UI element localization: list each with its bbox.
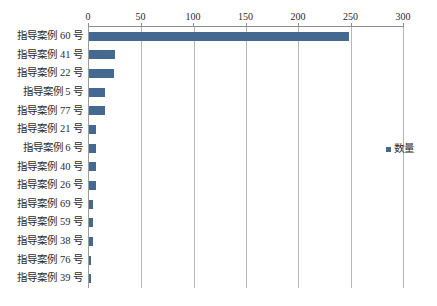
axis-tick (403, 23, 404, 27)
axis-tick-label: 300 (396, 12, 411, 22)
axis-tick-label: 150 (238, 12, 253, 22)
axis-tick-label: 0 (86, 12, 91, 22)
bar (89, 144, 96, 153)
bar (89, 88, 105, 97)
bar (89, 181, 96, 190)
category-label: 指导案例 5 号 (0, 83, 86, 102)
bar (89, 69, 114, 78)
axis-tick-label: 250 (343, 12, 358, 22)
bar-row (89, 27, 403, 46)
bar-row (89, 46, 403, 65)
bar-row (89, 102, 403, 121)
bar (89, 162, 96, 171)
bar-row (89, 251, 403, 270)
bar (89, 237, 93, 246)
bar-row (89, 83, 403, 102)
axis-tick-label: 50 (136, 12, 146, 22)
category-label: 指导案例 60 号 (0, 27, 86, 46)
bar (89, 256, 91, 265)
chart-legend: 数量 (386, 144, 414, 155)
bar (89, 50, 115, 59)
bar (89, 106, 105, 115)
category-label: 指导案例 22 号 (0, 64, 86, 83)
bar-chart: 指导案例 60 号指导案例 41 号指导案例 22 号指导案例 5 号指导案例 … (0, 0, 437, 306)
category-label: 指导案例 39 号 (0, 269, 86, 288)
bar (89, 32, 349, 41)
axis-tick-label: 200 (291, 12, 306, 22)
value-axis: 050100150200250300 (88, 18, 403, 27)
bar-row (89, 120, 403, 139)
bar (89, 218, 93, 227)
bar-row (89, 139, 403, 158)
bar (89, 200, 93, 209)
category-label: 指导案例 40 号 (0, 157, 86, 176)
plot-area (88, 27, 403, 288)
bar-row (89, 232, 403, 251)
category-axis: 指导案例 60 号指导案例 41 号指导案例 22 号指导案例 5 号指导案例 … (0, 27, 86, 288)
category-label: 指导案例 26 号 (0, 176, 86, 195)
legend-label-quantity: 数量 (394, 144, 414, 155)
gridline (403, 27, 404, 288)
legend-swatch-quantity (386, 147, 391, 152)
category-label: 指导案例 6 号 (0, 139, 86, 158)
bar-row (89, 64, 403, 83)
category-label: 指导案例 77 号 (0, 102, 86, 121)
axis-tick-label: 100 (186, 12, 201, 22)
category-label: 指导案例 41 号 (0, 46, 86, 65)
bar-row (89, 176, 403, 195)
bar-row (89, 195, 403, 214)
category-label: 指导案例 69 号 (0, 195, 86, 214)
bar-row (89, 213, 403, 232)
bar (89, 274, 91, 283)
bar-row (89, 157, 403, 176)
category-label: 指导案例 76 号 (0, 251, 86, 270)
bar-row (89, 269, 403, 288)
category-label: 指导案例 21 号 (0, 120, 86, 139)
bars-layer (89, 27, 403, 288)
category-label: 指导案例 38 号 (0, 232, 86, 251)
bar (89, 125, 96, 134)
category-label: 指导案例 59 号 (0, 213, 86, 232)
